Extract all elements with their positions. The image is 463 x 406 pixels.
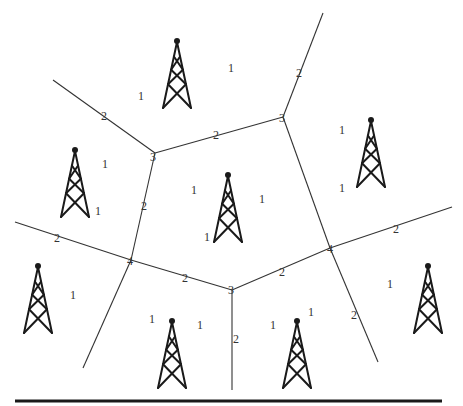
edge-labels: 2 2 2 2 2 2 2 2 2 2 (54, 66, 399, 346)
tower-leg (414, 267, 428, 333)
edge (83, 260, 131, 368)
edge (283, 117, 330, 248)
cell-label: 1 (70, 288, 76, 302)
radio-tower-icon (163, 38, 191, 108)
vertex-label: 3 (150, 150, 156, 164)
tower-leg (357, 121, 371, 187)
vertex-labels: 3 3 4 3 4 (127, 111, 333, 297)
cell-label: 1 (308, 305, 314, 319)
radio-tower-icon (158, 318, 186, 388)
cell-label: 1 (387, 277, 393, 291)
tower-beacon (169, 318, 175, 324)
vertex-label: 4 (327, 242, 333, 256)
radio-tower-icon (61, 147, 89, 217)
radio-tower-icon (24, 263, 52, 333)
tower-leg (228, 176, 242, 242)
edge-label: 2 (141, 199, 147, 213)
cell-label: 1 (149, 312, 155, 326)
edge (283, 13, 323, 117)
tower-beacon (35, 263, 41, 269)
edge-label: 2 (54, 231, 60, 245)
vertex-label: 3 (228, 283, 234, 297)
tower-leg (38, 267, 52, 333)
cell-label: 1 (204, 230, 210, 244)
edge (330, 248, 378, 362)
edge-label: 2 (351, 308, 357, 322)
edge (330, 207, 452, 248)
tower-beacon (174, 38, 180, 44)
cell-label: 1 (339, 123, 345, 137)
tower-leg (172, 322, 186, 388)
tower-leg (371, 121, 385, 187)
edge (155, 117, 283, 153)
tower-beacon (72, 147, 78, 153)
vertex-label: 4 (127, 254, 133, 268)
tower-leg (61, 151, 75, 217)
edge-label: 2 (182, 271, 188, 285)
cell-label: 1 (197, 318, 203, 332)
radio-tower-icon (357, 117, 385, 187)
tower-beacon (425, 263, 431, 269)
cell-label: 1 (270, 318, 276, 332)
edge (15, 222, 131, 260)
tower-leg (177, 42, 191, 108)
tower-leg (163, 42, 177, 108)
tower-leg (24, 267, 38, 333)
edge-label: 2 (393, 222, 399, 236)
tower-leg (158, 322, 172, 388)
tower-leg (75, 151, 89, 217)
edge-label: 2 (296, 66, 302, 80)
cell-label: 1 (138, 89, 144, 103)
tower-beacon (368, 117, 374, 123)
cell-label: 1 (191, 183, 197, 197)
tower-beacon (294, 318, 300, 324)
cell-label: 1 (259, 192, 265, 206)
cell-label: 1 (339, 181, 345, 195)
edge-label: 2 (213, 128, 219, 142)
cell-label: 1 (102, 157, 108, 171)
radio-tower-icon (214, 172, 242, 242)
edge-label: 2 (101, 109, 107, 123)
tower-beacon (225, 172, 231, 178)
tower-leg (214, 176, 228, 242)
tower-leg (297, 322, 311, 388)
cell-label: 1 (228, 61, 234, 75)
voronoi-diagram: 3 3 4 3 4 2 2 2 2 2 2 2 2 2 2 1 1 1 1 1 … (0, 0, 463, 406)
radio-tower-icon (283, 318, 311, 388)
vertex-label: 3 (279, 111, 285, 125)
edge-label: 2 (233, 332, 239, 346)
tower-leg (428, 267, 442, 333)
edge-label: 2 (279, 265, 285, 279)
tower-leg (283, 322, 297, 388)
radio-tower-icon (414, 263, 442, 333)
cell-label: 1 (95, 204, 101, 218)
